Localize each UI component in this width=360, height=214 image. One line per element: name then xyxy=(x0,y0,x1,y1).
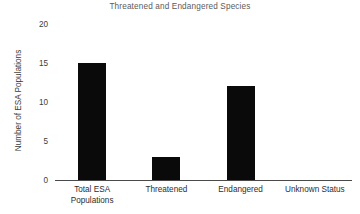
x-axis-line xyxy=(55,180,352,181)
y-tick-label: 10 xyxy=(8,99,48,107)
y-tick-label: 0 xyxy=(8,177,48,185)
bar xyxy=(227,86,255,180)
x-tick-label: Threatened xyxy=(129,184,203,206)
y-tick-label: 5 xyxy=(8,138,48,146)
x-tick-label: Endangered xyxy=(204,184,278,206)
bar-slot xyxy=(204,24,278,180)
bar xyxy=(78,63,106,180)
x-tick-label-line: Threatened xyxy=(129,184,203,195)
plot-area xyxy=(55,24,352,181)
x-tick-label-line: Unknown Status xyxy=(278,184,352,195)
bar-series xyxy=(55,24,352,180)
bar-slot xyxy=(55,24,129,180)
bar-slot xyxy=(129,24,203,180)
x-tick-label: Unknown Status xyxy=(278,184,352,206)
y-tick-label: 20 xyxy=(8,21,48,29)
x-tick-label-line: Populations xyxy=(55,195,129,206)
bar xyxy=(152,157,180,180)
x-tick-label-line: Endangered xyxy=(204,184,278,195)
x-tick-label-line: Total ESA xyxy=(55,184,129,195)
chart-title: Threatened and Endangered Species xyxy=(0,2,360,11)
x-axis-ticks: Total ESAPopulationsThreatenedEndangered… xyxy=(55,184,352,206)
x-tick-label: Total ESAPopulations xyxy=(55,184,129,206)
bar-chart: Threatened and Endangered Species Number… xyxy=(0,0,360,214)
bar-slot xyxy=(278,24,352,180)
y-tick-label: 15 xyxy=(8,60,48,68)
